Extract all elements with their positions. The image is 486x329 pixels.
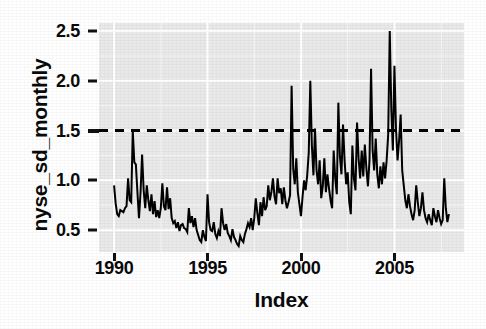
x-tick-label: 2000: [266, 258, 336, 279]
data-series-line: [114, 31, 449, 246]
x-tick-label: 1995: [173, 258, 243, 279]
y-tick-label: 2.0: [36, 70, 80, 91]
y-tick-mark: [88, 29, 97, 32]
chart-figure: nyse_sd_monthly 0.51.01.52.02.5 19901995…: [0, 0, 486, 329]
x-tick-label: 1990: [79, 258, 149, 279]
y-tick-label: 1.0: [36, 170, 80, 191]
y-axis-tick-marks: [88, 0, 99, 329]
y-tick-mark: [88, 79, 97, 82]
plot-panel: [99, 23, 464, 252]
y-tick-mark: [88, 229, 97, 232]
x-axis-title: Index: [99, 288, 464, 312]
y-tick-label: 1.5: [36, 120, 80, 141]
y-tick-label: 2.5: [36, 20, 80, 41]
x-tick-label: 2005: [360, 258, 430, 279]
minor-gridlines: [99, 23, 464, 252]
y-axis-tick-labels: 0.51.01.52.02.5: [36, 0, 80, 329]
major-gridlines: [99, 23, 464, 252]
plot-svg: [99, 23, 464, 252]
y-tick-label: 0.5: [36, 220, 80, 241]
y-tick-mark: [88, 179, 97, 182]
